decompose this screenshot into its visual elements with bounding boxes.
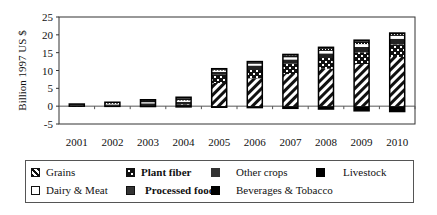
bar-segment — [319, 53, 334, 58]
y-tick-label: 25 — [42, 11, 54, 23]
y-tick-label: -5 — [44, 118, 54, 130]
bar-segment — [390, 44, 405, 56]
x-tick-label: 2001 — [66, 136, 88, 148]
bar-segment — [176, 104, 191, 106]
x-tick-label: 2006 — [244, 136, 267, 148]
bar-segment — [319, 58, 334, 69]
bar-2008 — [319, 47, 334, 109]
bar-segment — [390, 57, 405, 106]
bar-segment — [247, 78, 262, 106]
bar-segment — [283, 74, 298, 106]
bar-segment — [105, 103, 120, 104]
bar-segment — [319, 49, 334, 51]
legend-label: Beverages & Tobacco — [236, 184, 333, 196]
bar-segment — [283, 56, 298, 58]
legend-item-grains: Grains — [31, 166, 75, 178]
y-axis-label: Billion 1997 US $ — [16, 30, 28, 111]
bar-2006 — [247, 62, 262, 108]
bar-2003 — [141, 100, 156, 107]
bar-2007 — [283, 54, 298, 108]
legend-label: Livestock — [343, 166, 386, 178]
bar-segment — [354, 42, 369, 44]
y-tick-label: 0 — [48, 100, 54, 112]
bar-segment — [247, 69, 262, 78]
x-tick-label: 2004 — [173, 136, 196, 148]
legend-item-livestock: Livestock — [316, 166, 386, 178]
y-tick-label: 20 — [42, 29, 54, 41]
bar-segment — [176, 98, 191, 100]
bar-2009 — [354, 40, 369, 111]
bar-segment — [176, 102, 191, 104]
legend-item-other-crops: Other crops — [211, 166, 288, 178]
legend-item-processed-food: Processed food — [126, 184, 215, 196]
legend-label: Processed food — [145, 184, 215, 196]
bar-segment — [105, 104, 120, 105]
legend-swatch-black-icon — [211, 186, 220, 195]
legend-swatch-black-icon — [316, 168, 325, 177]
legend-swatch-dotted-icon — [126, 186, 135, 195]
bar-segment — [283, 64, 298, 74]
bar-segment — [212, 83, 227, 106]
legend-label: Grains — [46, 166, 75, 178]
legend: Grains Plant fiber Other crops Livestock… — [25, 160, 414, 203]
bar-2010 — [390, 33, 405, 111]
legend-label: Plant fiber — [141, 166, 191, 178]
bar-segment — [390, 34, 405, 36]
bar-segment — [390, 106, 405, 111]
legend-swatch-dark-icon — [211, 168, 220, 177]
bar-segment — [354, 44, 369, 47]
legend-item-plant-fiber: Plant fiber — [126, 166, 191, 178]
legend-swatch-stripes-icon — [31, 168, 40, 177]
bar-segment — [319, 51, 334, 53]
bar-segment — [212, 72, 227, 75]
bar-segment — [141, 101, 156, 102]
bar-segment — [141, 102, 156, 103]
bar-segment — [212, 71, 227, 72]
bar-segment — [283, 57, 298, 59]
legend-swatch-checker-icon — [126, 168, 135, 177]
legend-label: Other crops — [236, 166, 288, 178]
x-tick-label: 2007 — [279, 136, 302, 148]
y-tick-label: 10 — [42, 65, 54, 77]
x-tick-label: 2005 — [208, 136, 231, 148]
bar-segment — [212, 75, 227, 83]
bar-2001 — [69, 104, 84, 106]
bar-segment — [354, 52, 369, 64]
bar-segment — [319, 69, 334, 106]
x-tick-label: 2002 — [101, 136, 123, 148]
bar-2004 — [176, 97, 191, 107]
bar-segment — [354, 47, 369, 52]
bar-segment — [105, 104, 120, 105]
bar-segment — [283, 59, 298, 63]
bar-segment — [390, 36, 405, 39]
x-tick-label: 2008 — [315, 136, 338, 148]
x-tick-label: 2009 — [351, 136, 374, 148]
x-tick-label: 2010 — [386, 136, 409, 148]
y-tick-label: 5 — [48, 82, 54, 94]
stacked-bar-chart: -50510152025Billion 1997 US $20012002200… — [0, 0, 437, 158]
legend-label: Dairy & Meat — [46, 184, 108, 196]
x-tick-label: 2003 — [137, 136, 160, 148]
bar-2005 — [212, 69, 227, 108]
bar-segment — [247, 62, 262, 63]
bar-2002 — [105, 102, 120, 106]
legend-item-beverages-tobacco: Beverages & Tobacco — [211, 184, 333, 196]
y-tick-label: 15 — [42, 47, 54, 59]
bar-segment — [141, 103, 156, 105]
bar-segment — [176, 100, 191, 101]
bar-segment — [212, 69, 227, 70]
legend-item-dairy-meat: Dairy & Meat — [31, 184, 108, 196]
bar-segment — [354, 64, 369, 106]
bar-segment — [390, 39, 405, 45]
bar-segment — [247, 66, 262, 70]
bar-segment — [247, 64, 262, 66]
legend-swatch-white-icon — [31, 186, 40, 195]
chart-figure: -50510152025Billion 1997 US $20012002200… — [0, 0, 437, 215]
